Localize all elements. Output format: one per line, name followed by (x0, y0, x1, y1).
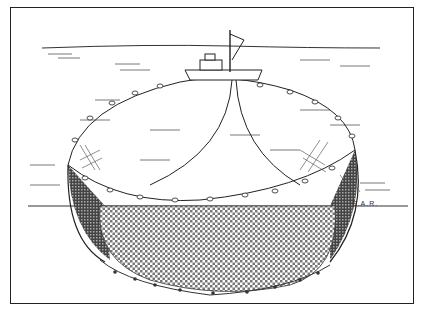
cork-floats (72, 83, 355, 202)
float-line (68, 78, 355, 200)
horizon-line (42, 45, 380, 48)
purse-seine-illustration (0, 0, 424, 317)
fishing-boat (185, 30, 262, 80)
net-hatching (80, 140, 360, 195)
purse-line-right (236, 80, 300, 185)
artist-signature: S.A.R. (352, 200, 378, 207)
purse-line-left (150, 80, 232, 185)
